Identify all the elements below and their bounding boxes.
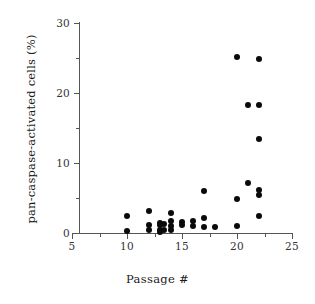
- data-point: [124, 213, 130, 219]
- data-point: [256, 102, 262, 108]
- y-tick-0: [74, 233, 79, 234]
- scatter-plot-figure: 510152025 0102030 Passage # pan-caspase-…: [0, 0, 315, 304]
- y-axis-line: [79, 22, 80, 234]
- data-point: [256, 213, 262, 219]
- x-axis-title: Passage #: [0, 272, 315, 286]
- data-point: [245, 102, 251, 108]
- y-tick-20: [74, 93, 79, 94]
- data-point: [234, 196, 240, 202]
- x-tick-15: [182, 234, 183, 239]
- y-tick-minor: [76, 58, 79, 59]
- data-point: [234, 54, 240, 60]
- y-tick-minor: [76, 198, 79, 199]
- x-tick-minor: [265, 234, 266, 237]
- x-tick-label-15: 15: [175, 240, 189, 252]
- x-tick-5: [72, 234, 73, 239]
- x-tick-label-5: 5: [69, 240, 76, 252]
- data-point: [124, 228, 130, 234]
- x-tick-minor: [155, 234, 156, 237]
- y-tick-minor: [76, 128, 79, 129]
- y-tick-label-10: 10: [56, 157, 70, 169]
- x-tick-25: [292, 234, 293, 239]
- x-tick-minor: [100, 234, 101, 237]
- y-tick-label-0: 0: [63, 227, 70, 239]
- data-point: [179, 222, 185, 228]
- data-point: [201, 188, 207, 194]
- y-tick-30: [74, 23, 79, 24]
- data-point: [190, 223, 196, 229]
- plot-area: 510152025 0102030: [0, 0, 315, 304]
- y-tick-label-20: 20: [56, 87, 70, 99]
- x-tick-label-20: 20: [230, 240, 244, 252]
- data-point: [256, 136, 262, 142]
- x-tick-20: [237, 234, 238, 239]
- y-axis-title: pan-caspase-activated cells (%): [24, 14, 38, 244]
- data-point: [146, 208, 152, 214]
- x-tick-10: [127, 234, 128, 239]
- data-point: [161, 221, 167, 227]
- data-point: [201, 215, 207, 221]
- data-point: [256, 192, 262, 198]
- data-point: [201, 224, 207, 230]
- data-point: [212, 224, 218, 230]
- data-point: [168, 210, 174, 216]
- data-point: [245, 180, 251, 186]
- data-point: [234, 223, 240, 229]
- y-tick-10: [74, 163, 79, 164]
- y-tick-label-30: 30: [56, 17, 70, 29]
- x-tick-minor: [210, 234, 211, 237]
- data-point: [256, 56, 262, 62]
- x-tick-label-25: 25: [285, 240, 299, 252]
- x-tick-label-10: 10: [120, 240, 134, 252]
